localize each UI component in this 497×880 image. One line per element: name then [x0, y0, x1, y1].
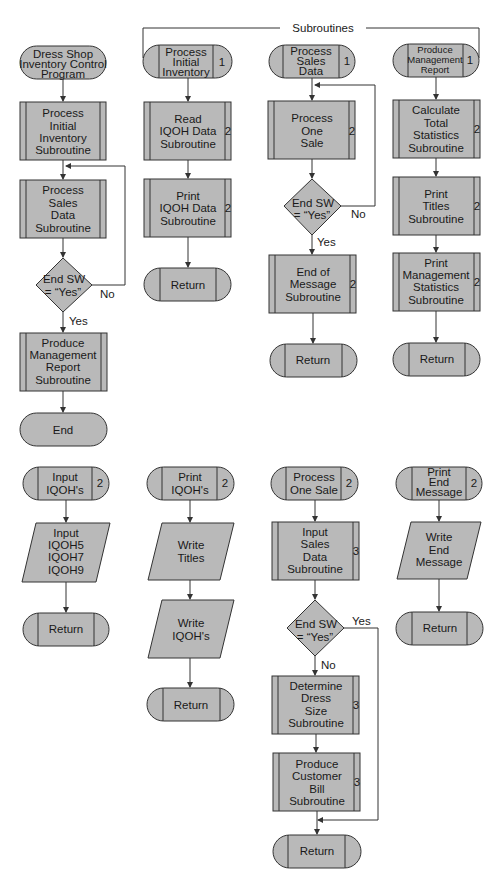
svg-text:Message: Message [290, 278, 337, 290]
svg-text:Print: Print [424, 188, 448, 200]
svg-text:Subroutine: Subroutine [408, 213, 464, 225]
write-titles-io: Write Titles [148, 523, 234, 580]
level-number: 2 [471, 477, 477, 489]
svg-text:Inventory: Inventory [39, 132, 87, 144]
svg-text:End SW: End SW [43, 273, 85, 285]
svg-text:Subroutine: Subroutine [408, 294, 464, 306]
svg-text:Return: Return [174, 699, 209, 711]
svg-text:Process: Process [42, 107, 84, 119]
svg-text:Bill: Bill [309, 783, 324, 795]
print-management-statistics-box: Print Management Statistics Subroutine 2 [393, 253, 480, 311]
svg-text:Inventory: Inventory [162, 66, 210, 78]
svg-text:Total: Total [424, 117, 448, 129]
sub-print-iqoh: Print IQOH's 2 Write Titles Write IQOH's… [147, 467, 234, 721]
svg-text:Size: Size [305, 705, 327, 717]
level-number: 1 [467, 54, 473, 66]
svg-text:Data: Data [299, 65, 324, 77]
svg-text:Process: Process [293, 471, 335, 483]
initial-inventory-terminal: Process Initial Inventory 1 [143, 45, 232, 78]
svg-text:= “Yes”: = “Yes” [294, 209, 331, 221]
level-number: 2 [349, 125, 355, 137]
yes-label: Yes [69, 315, 88, 327]
svg-text:Produce: Produce [42, 337, 85, 349]
svg-text:Return: Return [300, 845, 335, 857]
process-one-sale-box: Process One Sale 2 [268, 101, 355, 159]
subroutines-label: Subroutines [292, 22, 354, 34]
svg-text:One: One [301, 125, 323, 137]
svg-text:IQOH5: IQOH5 [48, 539, 84, 551]
svg-text:Management: Management [29, 349, 97, 361]
svg-text:Return: Return [423, 622, 458, 634]
level-number: 1 [219, 56, 225, 68]
svg-text:Subroutine: Subroutine [35, 374, 91, 386]
end-sw-decision-2: End SW = “Yes” [284, 179, 341, 235]
svg-text:End of: End of [296, 266, 330, 278]
level-number: 2 [225, 125, 231, 137]
level-number: 2 [350, 278, 356, 290]
level-number: 2 [474, 123, 480, 135]
svg-text:End: End [429, 544, 449, 556]
svg-text:Subroutine: Subroutine [408, 142, 464, 154]
print-titles-box: Print Titles Subroutine 2 [393, 177, 480, 235]
end-sw-decision-3: End SW = “Yes” [287, 600, 344, 656]
svg-text:IQOH Data: IQOH Data [160, 125, 217, 137]
no-label: No [321, 659, 336, 671]
flowchart: Subroutines Dress Shop Inventory Control… [0, 0, 497, 880]
level-number: 2 [474, 200, 480, 212]
svg-text:Subroutine: Subroutine [288, 717, 344, 729]
svg-text:Write: Write [426, 531, 453, 543]
svg-text:Calculate: Calculate [412, 104, 460, 116]
level-number: 2 [225, 202, 231, 214]
no-label: No [351, 208, 366, 220]
print-iqoh-terminal: Print IQOH's 2 [147, 467, 234, 500]
sub-end-message: Print End Message 2 Write End Message Re… [396, 466, 483, 645]
svg-text:Print: Print [178, 471, 202, 483]
process-sales-data-box: Process Sales Data Subroutine [20, 180, 106, 238]
management-report-terminal: Produce Management Report 1 [393, 44, 479, 77]
svg-text:Write: Write [178, 539, 205, 551]
svg-text:Produce: Produce [296, 758, 339, 770]
svg-text:Report: Report [46, 361, 81, 373]
level-number: 3 [353, 545, 359, 557]
return-terminal: Return [273, 835, 361, 868]
one-sale-terminal: Process One Sale 2 [271, 467, 358, 500]
svg-text:Process: Process [42, 184, 84, 196]
svg-text:Input: Input [52, 471, 78, 483]
svg-text:Titles: Titles [177, 552, 204, 564]
svg-text:Input: Input [302, 526, 328, 538]
produce-customer-bill-box: Produce Customer Bill Subroutine 3 [273, 753, 360, 811]
return-terminal: Return [393, 343, 480, 376]
write-end-message-io: Write End Message [397, 522, 481, 579]
yes-label: Yes [352, 615, 371, 627]
input-iqoh-terminal: Input IQOH's 2 [23, 467, 109, 500]
svg-text:IQOH Data: IQOH Data [160, 202, 217, 214]
print-iqoh-data-box: Print IQOH Data Subroutine 2 [144, 179, 231, 237]
svg-text:Report: Report [421, 64, 450, 75]
svg-text:IQOH's: IQOH's [172, 630, 210, 642]
return-terminal: Return [144, 268, 231, 301]
level-number: 2 [97, 477, 103, 489]
svg-text:Subroutine: Subroutine [160, 138, 216, 150]
svg-text:Write: Write [178, 617, 205, 629]
return-terminal: Return [270, 344, 357, 377]
return-terminal: Return [147, 688, 234, 721]
svg-text:Determine: Determine [289, 680, 342, 692]
end-terminal: End [20, 413, 107, 446]
svg-text:Sale: Sale [300, 137, 323, 149]
input-sales-data-box: Input Sales Data Subroutine 3 [272, 522, 359, 580]
write-iqoh-io: Write IQOH's [148, 600, 234, 658]
return-terminal: Return [396, 612, 483, 645]
process-initial-inventory-box: Process Initial Inventory Subroutine [20, 102, 106, 160]
svg-text:Sales: Sales [49, 197, 78, 209]
svg-text:Subroutine: Subroutine [35, 144, 91, 156]
svg-text:IQOH's: IQOH's [171, 484, 209, 496]
svg-text:Customer: Customer [292, 770, 342, 782]
end-sw-decision: End SW = “Yes” [36, 258, 92, 312]
svg-text:Statistics: Statistics [413, 281, 459, 293]
level-number: 3 [354, 776, 360, 788]
svg-text:Program: Program [41, 68, 85, 80]
svg-text:Initial: Initial [50, 120, 77, 132]
svg-text:IQOH7: IQOH7 [48, 551, 84, 563]
svg-text:Message: Message [416, 486, 463, 498]
svg-text:Data: Data [303, 551, 328, 563]
